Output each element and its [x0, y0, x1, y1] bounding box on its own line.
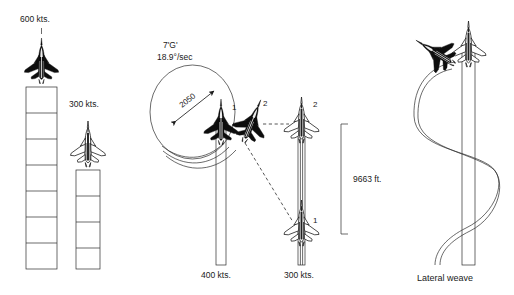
trailing-pair-group: 2 1: [284, 97, 319, 265]
weave-path-inner: [418, 69, 499, 265]
turn-rate-label: 18.9°/sec: [157, 52, 193, 62]
dashed-link-diagonal: [245, 143, 293, 222]
track-600kts-group: 600 kts.: [20, 14, 59, 269]
weave-path-outer: [414, 62, 500, 265]
track-300kts-group: 300 kts.: [69, 99, 106, 269]
dimension-bracket-icon: 9663 ft.: [341, 124, 381, 234]
fighter-jet-light-icon-left: [71, 121, 106, 167]
fighter-jet-dark-icon-2: [228, 93, 277, 148]
g-load-label: 7'G': [163, 40, 178, 50]
aircraft-marker-2-right: 2: [313, 100, 318, 109]
speed-label-300-right: 300 kts.: [284, 270, 314, 280]
speed-label-300-left: 300 kts.: [69, 99, 99, 109]
fighter-jet-dark-icon: [24, 38, 58, 84]
speed-label-400: 400 kts.: [201, 270, 231, 280]
aircraft-marker-2-center: 2: [263, 99, 268, 108]
ladder-track-600: [26, 87, 57, 269]
lateral-weave-group: Lateral weave: [407, 21, 500, 283]
speed-label-600: 600 kts.: [20, 14, 50, 24]
separation-label: 9663 ft.: [353, 174, 381, 184]
lateral-weave-caption: Lateral weave: [417, 273, 473, 283]
aircraft-maneuver-diagram: 600 kts. 300 kts. 7'G': [0, 0, 514, 295]
aircraft-marker-1-center: 1: [232, 103, 237, 112]
aircraft-marker-1-right: 1: [313, 216, 318, 225]
ladder-track-300: [76, 170, 100, 269]
turn-performance-group: 7'G' 18.9°/sec 2050 1 2: [150, 40, 293, 265]
diagram-root: 600 kts. 300 kts. 7'G': [0, 0, 514, 295]
fighter-jet-light-icon-weave: [451, 21, 486, 67]
